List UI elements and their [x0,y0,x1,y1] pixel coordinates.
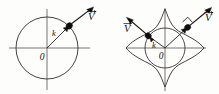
left-v-label-overbar-arrow [94,10,97,13]
left-k-vector [47,28,67,48]
right-v-label-2-group: V [124,22,133,34]
left-v-label: V [88,11,96,22]
right-v-label-1-group: V [205,11,214,23]
left-v-label-group: V [88,10,97,22]
right-v-label-1-overbar-arrow [211,11,214,14]
right-v-label-2: V [124,23,132,34]
right-k-vector-1 [165,30,185,48]
right-perpendicular-mark-1 [183,17,193,22]
right-v-label-1: V [205,12,213,23]
right-panel: V V k 0 [124,7,214,91]
right-origin-label: 0 [159,51,164,61]
fermi-surface-figure: V k 0 V [0,0,219,94]
left-origin-label: 0 [40,52,45,62]
left-panel: V k 0 [9,7,97,90]
left-k-label: k [52,28,56,38]
right-k-label: k [152,40,156,50]
figure-canvas: V k 0 V [0,0,219,94]
